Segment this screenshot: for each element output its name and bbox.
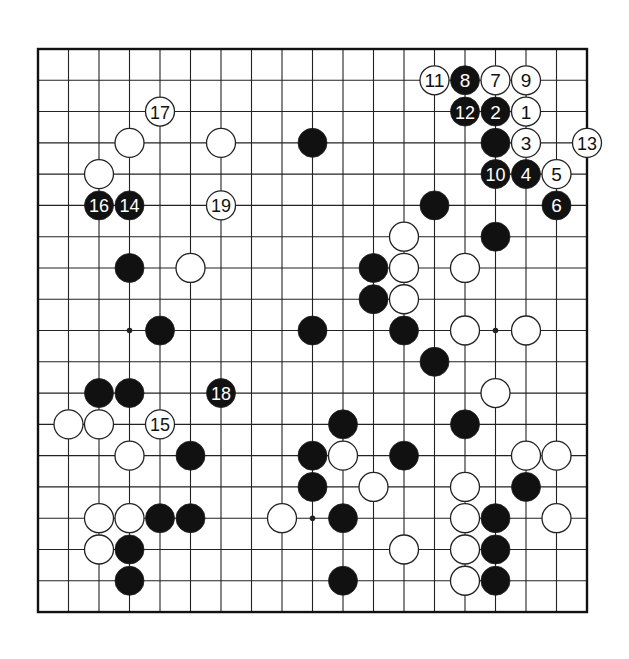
move-number-label: 1 (521, 102, 532, 123)
move-number-label: 11 (425, 70, 445, 91)
numbered-black-stone: 10 (481, 160, 510, 189)
black-stone (512, 472, 541, 501)
white-stone (451, 253, 480, 282)
move-number-label: 14 (120, 195, 140, 216)
white-stone (115, 441, 144, 470)
black-stone (420, 347, 449, 376)
white-stone (85, 535, 114, 564)
white-stone (542, 504, 571, 533)
numbered-white-stone: 5 (542, 160, 571, 189)
white-stone (512, 316, 541, 345)
black-stone (481, 222, 510, 251)
move-number-label: 9 (521, 70, 532, 91)
black-stone (298, 128, 327, 157)
white-stone (390, 535, 419, 564)
move-number-label: 10 (486, 164, 506, 185)
numbered-white-stone: 13 (573, 128, 602, 157)
numbered-black-stone: 12 (451, 97, 480, 126)
numbered-black-stone: 6 (542, 191, 571, 220)
black-stone (390, 316, 419, 345)
numbered-white-stone: 7 (481, 66, 510, 95)
move-number-label: 15 (150, 414, 170, 435)
black-stone (115, 566, 144, 595)
white-stone (85, 504, 114, 533)
numbered-black-stone: 4 (512, 160, 541, 189)
black-stone (481, 504, 510, 533)
black-stone (115, 379, 144, 408)
go-board-diagram: 12345678910111213141516171819 (0, 0, 629, 659)
black-stone (146, 504, 175, 533)
numbered-white-stone: 1 (512, 97, 541, 126)
move-number-label: 16 (89, 195, 109, 216)
white-stone (115, 128, 144, 157)
white-stone (85, 410, 114, 439)
move-number-label: 4 (521, 164, 532, 185)
white-stone (207, 128, 236, 157)
numbered-white-stone: 9 (512, 66, 541, 95)
numbered-white-stone: 15 (146, 410, 175, 439)
white-stone (329, 441, 358, 470)
numbered-black-stone: 2 (481, 97, 510, 126)
black-stone (390, 441, 419, 470)
numbered-black-stone: 18 (207, 379, 236, 408)
black-stone (481, 535, 510, 564)
white-stone (451, 566, 480, 595)
black-stone (298, 441, 327, 470)
black-stone (481, 566, 510, 595)
white-stone (542, 441, 571, 470)
white-stone (390, 253, 419, 282)
star-point-dot (493, 328, 499, 334)
move-number-label: 6 (551, 195, 562, 216)
black-stone (298, 316, 327, 345)
move-number-label: 5 (551, 164, 562, 185)
black-stone (146, 316, 175, 345)
black-stone (298, 472, 327, 501)
move-number-label: 7 (490, 70, 501, 91)
numbered-white-stone: 17 (146, 97, 175, 126)
white-stone (451, 504, 480, 533)
white-stone (359, 472, 388, 501)
black-stone (85, 379, 114, 408)
numbered-black-stone: 16 (85, 191, 114, 220)
black-stone (420, 191, 449, 220)
numbered-white-stone: 11 (420, 66, 449, 95)
numbered-black-stone: 8 (451, 66, 480, 95)
black-stone (359, 253, 388, 282)
star-point-dot (310, 515, 316, 521)
star-point-dot (127, 328, 133, 334)
move-number-label: 18 (211, 383, 231, 404)
move-number-label: 3 (521, 133, 532, 154)
black-stone (115, 253, 144, 282)
black-stone (359, 285, 388, 314)
move-number-label: 8 (460, 70, 471, 91)
white-stone (451, 316, 480, 345)
numbered-white-stone: 19 (207, 191, 236, 220)
white-stone (390, 222, 419, 251)
white-stone (176, 253, 205, 282)
white-stone (390, 285, 419, 314)
move-number-label: 19 (211, 195, 231, 216)
white-stone (451, 535, 480, 564)
move-number-label: 12 (455, 102, 475, 123)
black-stone (176, 504, 205, 533)
move-number-label: 17 (150, 102, 170, 123)
white-stone (115, 504, 144, 533)
white-stone (85, 160, 114, 189)
white-stone (268, 504, 297, 533)
move-number-label: 13 (577, 133, 597, 154)
numbered-white-stone: 3 (512, 128, 541, 157)
black-stone (329, 410, 358, 439)
white-stone (451, 472, 480, 501)
black-stone (451, 410, 480, 439)
move-number-label: 2 (490, 102, 501, 123)
white-stone (481, 379, 510, 408)
white-stone (512, 441, 541, 470)
black-stone (115, 535, 144, 564)
black-stone (481, 128, 510, 157)
numbered-black-stone: 14 (115, 191, 144, 220)
black-stone (176, 441, 205, 470)
black-stone (329, 566, 358, 595)
white-stone (54, 410, 83, 439)
black-stone (329, 504, 358, 533)
